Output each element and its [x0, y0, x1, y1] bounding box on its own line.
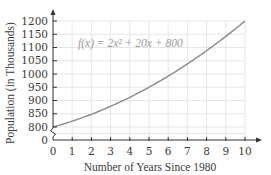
y-tick-label: 1100 — [21, 41, 48, 53]
y-tick-label: 850 — [28, 107, 48, 119]
population-chart: 012345678910 080085090095010001050110011… — [0, 0, 271, 175]
x-axis-title: Number of Years Since 1980 — [84, 161, 217, 173]
y-tick-label: 800 — [28, 121, 48, 133]
x-tick-label: 5 — [146, 145, 153, 157]
y-axis-ticks: 080085090095010001050110011501200 — [21, 15, 57, 146]
y-tick-label: 1200 — [21, 15, 48, 27]
function-label: f(x) = 2x² + 20x + 800 — [78, 37, 183, 50]
y-axis-title: Population (in Thousands) — [4, 22, 17, 144]
x-tick-label: 4 — [126, 145, 133, 157]
x-tick-label: 1 — [69, 145, 76, 157]
x-tick-label: 0 — [50, 145, 57, 157]
y-tick-label: 900 — [28, 94, 48, 106]
y-tick-label: 1000 — [21, 68, 48, 80]
y-tick-label: 1150 — [21, 28, 48, 40]
axes — [51, 9, 263, 143]
y-tick-label: 0 — [41, 134, 48, 146]
y-tick-label: 950 — [28, 81, 48, 93]
x-tick-label: 9 — [222, 145, 229, 157]
x-tick-label: 2 — [88, 145, 95, 157]
x-tick-label: 10 — [238, 145, 251, 157]
x-tick-label: 3 — [107, 145, 114, 157]
x-tick-label: 8 — [203, 145, 210, 157]
y-tick-label: 1050 — [21, 54, 48, 66]
x-tick-label: 7 — [184, 145, 191, 157]
x-tick-label: 6 — [165, 145, 172, 157]
